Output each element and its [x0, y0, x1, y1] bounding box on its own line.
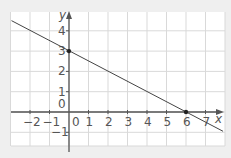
y-tick-label: 4	[58, 24, 66, 38]
x-tick-label: 4	[144, 115, 152, 129]
x-tick-label: 0	[72, 115, 80, 129]
x-tick-label: −2	[23, 115, 41, 129]
x-tick-label: 1	[86, 115, 94, 129]
y-tick-label: 0	[58, 97, 66, 111]
intercept-point	[67, 49, 71, 53]
x-axis-label: x	[214, 112, 223, 126]
y-tick-label: −1	[51, 125, 69, 139]
x-tick-label: 2	[105, 115, 113, 129]
x-tick-label: 3	[125, 115, 133, 129]
x-tick-label: 5	[164, 115, 172, 129]
line-graph: −2−101234567−101234 x y	[0, 0, 231, 158]
x-tick-label: 6	[183, 115, 191, 129]
graph-canvas: −2−101234567−101234 x y	[0, 0, 231, 158]
y-tick-label: 1	[58, 85, 66, 99]
y-tick-label: 3	[58, 44, 66, 58]
y-axis-label: y	[58, 8, 67, 22]
y-tick-label: 2	[58, 64, 66, 78]
intercept-point	[184, 110, 188, 114]
